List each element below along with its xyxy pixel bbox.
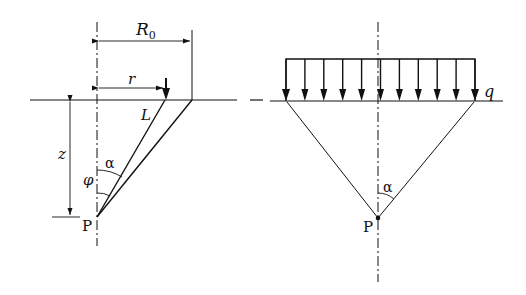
r-label: r xyxy=(128,70,136,88)
load-arrow xyxy=(396,59,403,101)
load-arrow xyxy=(339,59,346,101)
L-label: L xyxy=(140,106,151,124)
P-label-left: P xyxy=(82,217,92,235)
P-label-right: P xyxy=(363,218,373,236)
r0-label: R0 xyxy=(135,19,156,42)
point-load-arrowhead xyxy=(162,88,170,100)
load-arrow xyxy=(471,59,479,101)
z-label: z xyxy=(57,145,66,163)
cone-line-left xyxy=(287,102,378,218)
load-arrow xyxy=(415,59,422,101)
load-arrow xyxy=(358,59,365,101)
diagram-canvas: R0 r L z α φ P xyxy=(0,0,526,295)
phi-arc xyxy=(97,193,110,196)
left-diagram: R0 r L z α φ P xyxy=(30,19,263,246)
load-arrow xyxy=(320,59,327,101)
load-arrow xyxy=(453,59,460,101)
load-arrow xyxy=(434,59,441,101)
load-arrow xyxy=(301,59,308,101)
phi-label: φ xyxy=(83,171,94,189)
alpha-label-right: α xyxy=(383,179,393,195)
q-label: q xyxy=(484,82,494,101)
alpha-label-left: α xyxy=(105,155,115,171)
load-arrow xyxy=(282,59,290,101)
point-P-dot xyxy=(376,216,381,221)
alpha-arc-left xyxy=(97,170,122,177)
right-diagram: q α P xyxy=(270,22,503,282)
distributed-load-arrows xyxy=(282,59,479,101)
cone-line-right xyxy=(378,102,474,218)
